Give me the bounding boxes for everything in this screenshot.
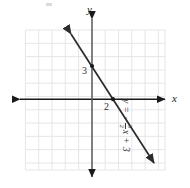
equation-plus: + [121,137,132,144]
x-intercept-label: 2 [104,102,109,112]
equation-equals: = [121,106,132,113]
equation-lhs: y [121,99,132,104]
y-axis-label: y [87,4,92,15]
line-equation-label: y = −32x + 3 [119,99,133,173]
coordinate-plane-svg [0,0,190,188]
x-intercept-dot [111,97,115,101]
y-intercept-label: 3 [82,66,87,76]
equation-fraction: 32 [117,123,133,129]
graph-canvas: x y 3 2 y = −32x + 3 [0,0,190,188]
y-intercept-dot [90,64,94,68]
equation-variable: x [121,130,132,135]
equation-denominator: 2 [117,123,124,129]
equation-numerator: 3 [125,123,133,129]
equation-sign: − [121,116,132,123]
equation-constant: 3 [121,147,132,152]
x-axis-label: x [172,93,177,104]
